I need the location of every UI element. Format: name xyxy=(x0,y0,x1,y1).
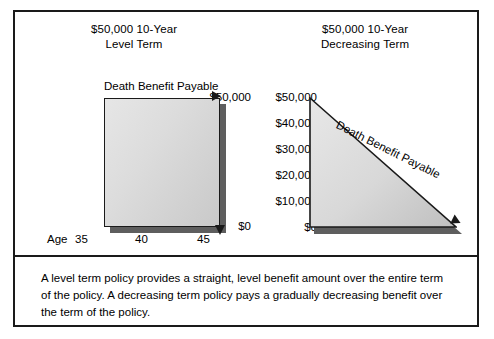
charts-container: $50,000 10-Year Level Term Death Benefit… xyxy=(15,12,477,253)
decreasing-term-ytick-10000: $10,000 xyxy=(251,195,317,207)
chart-level-term-title: $50,000 10-Year Level Term xyxy=(17,22,251,51)
level-term-plot-area xyxy=(104,98,220,227)
arrow-down-icon xyxy=(215,225,225,235)
level-term-xaxis-label: Age xyxy=(47,233,67,245)
level-term-xtick-45: 45 xyxy=(197,233,210,245)
level-term-benefit-area xyxy=(104,98,220,227)
decreasing-term-ytick-50000: $50,000 xyxy=(251,91,317,103)
horizontal-divider xyxy=(15,255,477,257)
arrow-right-icon xyxy=(212,91,221,101)
decreasing-term-benefit-area xyxy=(309,97,457,228)
level-term-xtick-35: 35 xyxy=(75,233,88,245)
decreasing-term-plot-area xyxy=(309,97,457,228)
chart-level-term: $50,000 10-Year Level Term Death Benefit… xyxy=(17,12,251,253)
decreasing-term-ytick-40000: $40,000 xyxy=(251,117,317,129)
figure-frame: $50,000 10-Year Level Term Death Benefit… xyxy=(13,10,479,327)
level-term-xtick-40: 40 xyxy=(135,233,148,245)
decreasing-term-ytick-0: $0 xyxy=(251,221,317,233)
decreasing-term-ytick-20000: $20,000 xyxy=(251,169,317,181)
chart-level-term-title-line1: $50,000 10-Year xyxy=(17,22,251,37)
decreasing-term-ytick-30000: $30,000 xyxy=(251,143,317,155)
figure-caption: A level term policy provides a straight,… xyxy=(41,270,455,321)
chart-decreasing-term: $50,000 10-Year Decreasing Term $50,000 … xyxy=(251,12,479,253)
chart-level-term-title-line2: Level Term xyxy=(17,37,251,52)
